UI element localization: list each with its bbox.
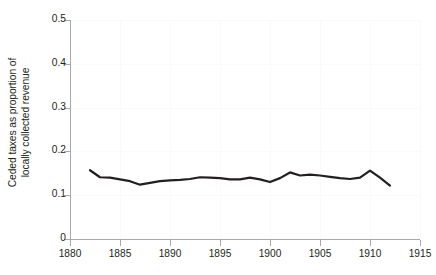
data-line-series-1 [90,170,390,185]
